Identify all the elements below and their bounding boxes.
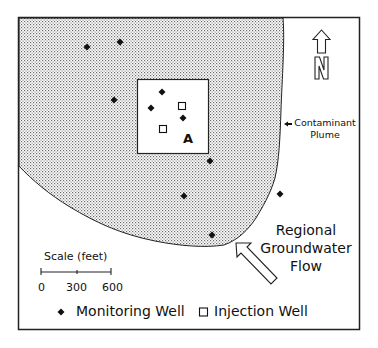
injection-well-icon (160, 126, 167, 133)
legend-monitoring-well-label: Monitoring Well (76, 303, 185, 319)
injection-well-icon (179, 103, 186, 110)
legend-injection-well-label: Injection Well (214, 303, 308, 319)
site-a-label: A (183, 131, 193, 146)
contaminant-plume-label: Contaminant Plume (292, 117, 358, 141)
contaminant-label-line2: Plume (292, 129, 358, 141)
north-arrow-icon (313, 30, 330, 53)
legend-monitoring-well-icon (58, 309, 65, 316)
contaminant-label-line1: Contaminant (292, 117, 358, 129)
groundwater-flow-label: Regional Groundwater Flow (258, 221, 354, 275)
north-n-glyph (315, 57, 328, 79)
legend-injection-well-icon (200, 308, 208, 316)
site-map (0, 0, 378, 348)
monitoring-well-icon (277, 191, 284, 198)
site-a-box (138, 80, 209, 154)
scale-tick-0: 0 (38, 281, 45, 294)
scale-tick-300: 300 (66, 281, 87, 294)
flow-label-line1: Regional (258, 221, 354, 239)
flow-label-line2: Groundwater (258, 239, 354, 257)
scale-tick-600: 600 (102, 281, 123, 294)
plume-pointer-arrow-icon (284, 122, 292, 127)
scale-bar (41, 268, 111, 275)
flow-label-line3: Flow (258, 257, 354, 275)
scale-title: Scale (feet) (44, 250, 107, 263)
